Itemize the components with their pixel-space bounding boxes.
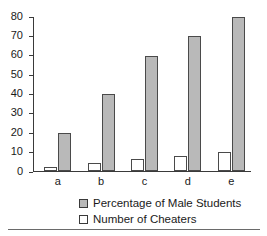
y-axis-tick-label: 30	[11, 106, 23, 119]
legend-swatch-gray-icon	[79, 199, 88, 208]
y-axis-tick-label: 60	[11, 48, 23, 61]
legend-label-cheaters: Number of Cheaters	[93, 213, 197, 226]
bar-group: a	[44, 17, 71, 171]
legend-item-cheaters: Number of Cheaters	[79, 212, 259, 227]
bar-male-students[interactable]	[58, 133, 71, 172]
y-axis-tick: 50	[29, 75, 33, 76]
y-axis-tick-label: 80	[11, 10, 23, 23]
x-axis-tick-label: d	[174, 175, 201, 188]
bars-layer: abcde	[34, 17, 251, 171]
bar-cheaters[interactable]	[218, 152, 231, 171]
bar-group: c	[131, 17, 158, 171]
y-axis-tick: 60	[29, 55, 33, 56]
plot-area: 80706050403020100 abcde	[33, 17, 251, 172]
x-axis-tick-label: e	[218, 175, 245, 188]
y-axis-tick: 70	[29, 36, 33, 37]
chart-legend: Percentage of Male Students Number of Ch…	[79, 196, 259, 228]
bar-male-students[interactable]	[232, 17, 245, 171]
y-axis-tick-label: 0	[17, 165, 23, 178]
bar-cheaters[interactable]	[44, 167, 57, 171]
bar-chart-figure: 80706050403020100 abcde Percentage of Ma…	[0, 0, 267, 236]
bar-male-students[interactable]	[102, 94, 115, 171]
y-axis-tick: 80	[29, 17, 33, 18]
y-axis-tick-label: 20	[11, 126, 23, 139]
y-axis-tick-label: 40	[11, 87, 23, 100]
x-axis-tick-label: c	[131, 175, 158, 188]
bar-male-students[interactable]	[145, 56, 158, 172]
y-axis-tick-label: 70	[11, 29, 23, 42]
bar-male-students[interactable]	[188, 36, 201, 171]
bar-group: e	[218, 17, 245, 171]
y-axis-tick: 30	[29, 113, 33, 114]
bar-cheaters[interactable]	[88, 163, 101, 171]
x-axis-tick-label: b	[88, 175, 115, 188]
legend-swatch-white-icon	[79, 215, 88, 224]
y-axis-tick-label: 10	[11, 145, 23, 158]
y-axis-tick: 0	[29, 172, 33, 173]
bar-group: b	[88, 17, 115, 171]
x-axis-tick-label: a	[44, 175, 71, 188]
y-axis-tick-label: 50	[11, 68, 23, 81]
y-axis-tick: 20	[29, 133, 33, 134]
bar-cheaters[interactable]	[131, 159, 144, 171]
y-axis-tick: 40	[29, 94, 33, 95]
legend-label-male-students: Percentage of Male Students	[93, 197, 241, 210]
bar-cheaters[interactable]	[174, 156, 187, 171]
x-axis-line	[33, 171, 251, 172]
y-axis-tick: 10	[29, 152, 33, 153]
bar-group: d	[174, 17, 201, 171]
bottom-divider	[8, 229, 260, 230]
legend-item-male-students: Percentage of Male Students	[79, 196, 259, 211]
